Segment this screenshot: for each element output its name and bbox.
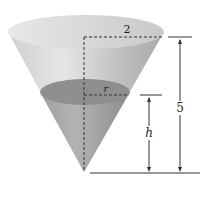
top-radius-label: 2 [124,23,131,36]
arrow-up-icon [178,39,182,44]
arrow-up-icon [147,97,151,102]
arrow-down-icon [147,167,151,172]
cone-top-ellipse [8,15,164,49]
total-height-label: 5 [176,101,184,115]
liquid-surface [40,79,130,105]
cone-diagram: 5 h 2 r [0,0,209,203]
arrow-down-icon [178,167,182,172]
liquid-height-label: h [145,126,153,140]
